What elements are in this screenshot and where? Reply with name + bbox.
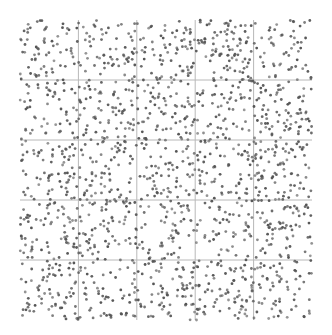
scatter-plot (0, 0, 332, 335)
grid-lines (20, 20, 312, 320)
data-points (19, 19, 313, 322)
